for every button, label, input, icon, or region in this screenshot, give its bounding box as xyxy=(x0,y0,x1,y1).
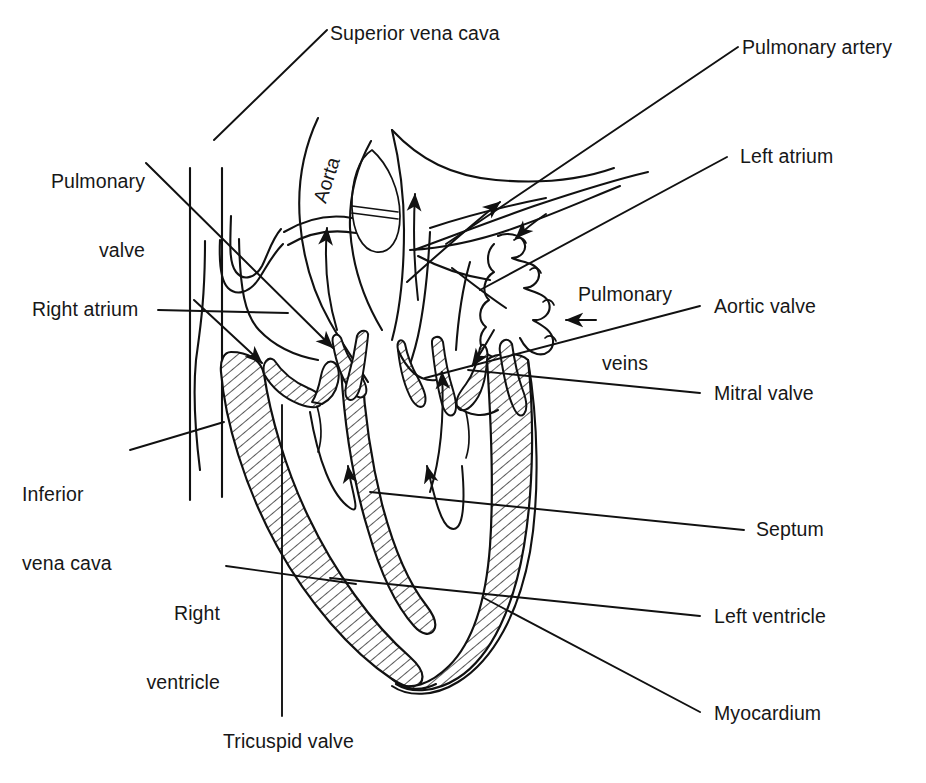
superior-vena-cava-vessel xyxy=(190,168,222,500)
label-pulmonary-valve: Pulmonary valve xyxy=(0,124,145,285)
pulmonary-artery-flow-arrow xyxy=(414,194,418,300)
leader-pulmonary-artery xyxy=(446,47,738,244)
right-atrial-appendage xyxy=(220,216,283,292)
label-left-ventricle: Left ventricle xyxy=(714,605,826,628)
label-pulmonary-valve-line1: Pulmonary xyxy=(0,170,145,193)
label-myocardium: Myocardium xyxy=(714,702,821,725)
label-superior-vena-cava: Superior vena cava xyxy=(330,22,500,45)
label-right-ventricle-line1: Right xyxy=(60,602,220,625)
pulmonary-valve xyxy=(333,331,368,400)
label-pulmonary-artery: Pulmonary artery xyxy=(742,36,892,59)
leader-myocardium xyxy=(484,598,700,712)
label-mitral-valve: Mitral valve xyxy=(714,382,814,405)
tricuspid-valve xyxy=(264,359,339,408)
leader-septum xyxy=(370,492,744,530)
label-right-ventricle: Right ventricle xyxy=(60,556,220,717)
label-right-ventricle-line2: ventricle xyxy=(60,671,220,694)
aorta-flow-arrow xyxy=(326,228,337,330)
pulmonary-veins-vessel xyxy=(480,234,556,359)
leader-superior-vena-cava xyxy=(214,30,327,140)
label-pulmonary-veins: Pulmonary veins xyxy=(560,237,690,398)
heart-diagram-figure: Aorta Superior vena cava Pulmonary arter… xyxy=(0,0,926,783)
label-septum: Septum xyxy=(756,518,824,541)
label-right-atrium: Right atrium xyxy=(32,298,138,321)
aortic-valve-leaflets xyxy=(398,337,456,416)
aortic-valve-cusp xyxy=(352,150,400,252)
label-tricuspid-valve: Tricuspid valve xyxy=(223,730,354,753)
label-pulmonary-veins-line2: veins xyxy=(560,352,690,375)
label-aortic-valve: Aortic valve xyxy=(714,295,816,318)
label-pulmonary-valve-line2: valve xyxy=(0,239,145,262)
aorta-internal-label: Aorta xyxy=(309,154,344,205)
leader-inferior-vena-cava xyxy=(130,422,224,450)
label-left-atrium: Left atrium xyxy=(740,145,833,168)
label-inferior-vena-cava-line1: Inferior xyxy=(22,483,112,506)
aorta-label-text: Aorta xyxy=(309,154,344,205)
label-pulmonary-veins-line1: Pulmonary xyxy=(560,283,690,306)
